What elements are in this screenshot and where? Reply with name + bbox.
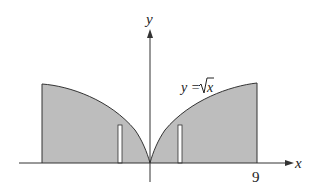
left-strip bbox=[118, 125, 122, 163]
region-diagram: y x 9 y = x bbox=[0, 0, 315, 192]
y-axis-label: y bbox=[144, 11, 153, 27]
x-axis-arrow-icon bbox=[285, 160, 294, 166]
right-strip bbox=[178, 125, 182, 163]
x-axis-label: x bbox=[294, 155, 302, 171]
curve-label-lhs: y = bbox=[179, 80, 200, 95]
curve-label-radicand: x bbox=[206, 80, 214, 95]
x-tick-9: 9 bbox=[252, 169, 260, 185]
y-axis-arrow-icon bbox=[147, 29, 153, 38]
